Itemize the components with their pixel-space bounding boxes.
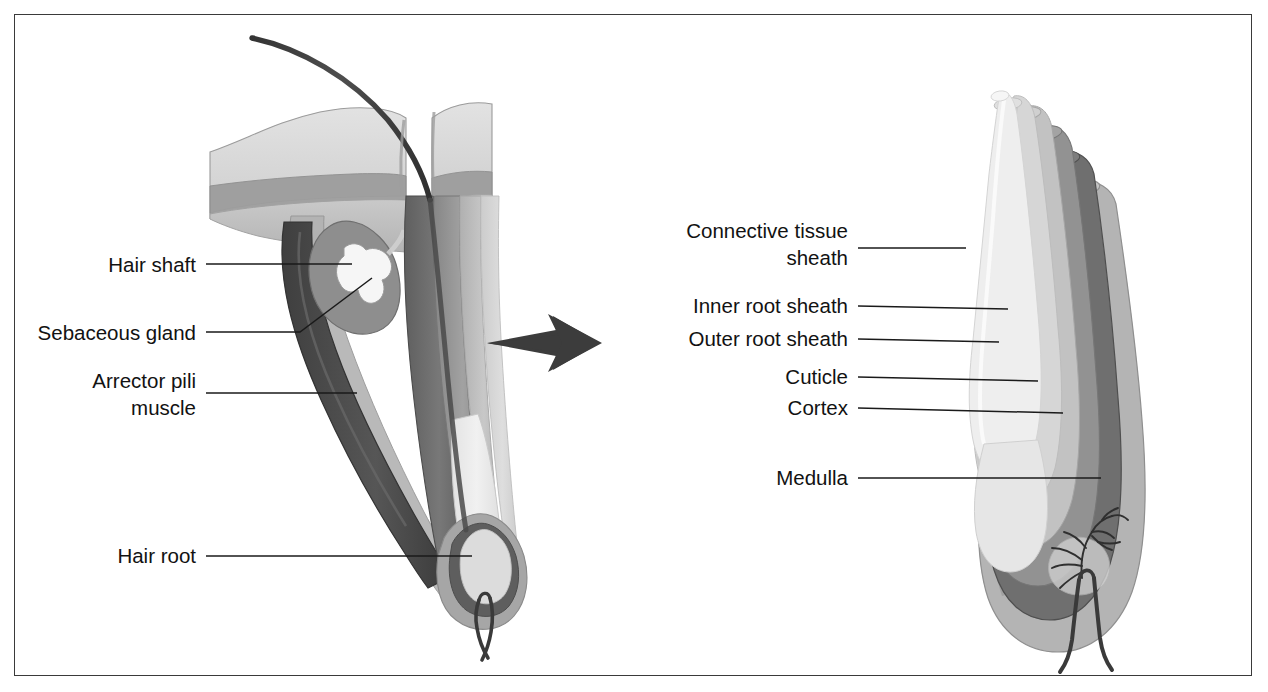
left-panel-labels: Hair shaft Sebaceous gland Arrector pili… [38,253,197,567]
label-medulla: Medulla [776,466,848,489]
left-panel-illustration: Hair shaft Sebaceous gland Arrector pili… [38,38,527,660]
right-panel-labels: Connective tissue sheath Inner root shea… [686,219,849,489]
figure-root: Hair shaft Sebaceous gland Arrector pili… [0,0,1268,692]
label-cortex: Cortex [788,396,849,419]
label-hair-root: Hair root [117,544,196,567]
label-arrector-pili-line1: Arrector pili [92,369,196,392]
anatomy-diagram: Hair shaft Sebaceous gland Arrector pili… [0,0,1268,692]
label-sebaceous-gland: Sebaceous gland [38,321,196,344]
label-hair-shaft: Hair shaft [108,253,196,276]
transition-arrow [487,314,602,372]
label-inner-root-sheath: Inner root sheath [693,294,848,317]
label-connective-tissue-sheath-line2: sheath [786,246,848,269]
right-panel-illustration: Connective tissue sheath Inner root shea… [686,90,1145,672]
label-cuticle: Cuticle [785,365,848,388]
label-connective-tissue-sheath-line1: Connective tissue [686,219,848,242]
label-arrector-pili-line2: muscle [131,396,196,419]
label-outer-root-sheath: Outer root sheath [688,327,848,350]
follicle-opening-right-wall [433,112,435,196]
right-bulb-inner-pale [974,440,1047,572]
